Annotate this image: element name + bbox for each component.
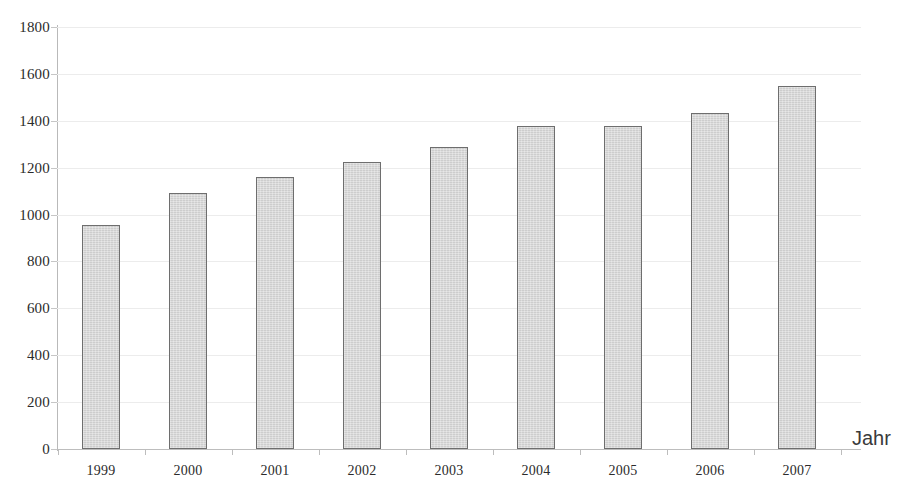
- x-axis-tick-label: 2007: [757, 464, 837, 478]
- y-axis-tick-mark: [51, 74, 57, 75]
- x-axis-title: Jahr: [852, 428, 891, 448]
- y-axis-tick-mark: [51, 215, 57, 216]
- y-axis-tick-label: 1400: [0, 113, 50, 128]
- x-axis-tick-label: 1999: [61, 464, 141, 478]
- x-axis-tick-mark: [58, 450, 59, 455]
- bar: [343, 162, 381, 449]
- y-axis-tick-mark: [51, 355, 57, 356]
- y-axis-tick-label: 1200: [0, 160, 50, 175]
- bar: [430, 147, 468, 449]
- x-axis-tick-mark: [406, 450, 407, 455]
- x-axis-tick-mark: [667, 450, 668, 455]
- y-axis-tick-label: 600: [0, 301, 50, 316]
- y-axis-tick-label: 800: [0, 254, 50, 269]
- y-axis-tick-mark: [51, 308, 57, 309]
- x-axis-tick-label: 2001: [235, 464, 315, 478]
- y-axis-tick-mark: [51, 168, 57, 169]
- bar: [778, 86, 816, 449]
- bar: [691, 113, 729, 449]
- x-axis-tick-mark: [319, 450, 320, 455]
- x-axis-tick-mark: [841, 450, 842, 455]
- x-axis-tick-mark: [145, 450, 146, 455]
- bar: [169, 193, 207, 449]
- bar: [604, 126, 642, 449]
- gridline: [57, 121, 861, 122]
- x-axis-tick-label: 2004: [496, 464, 576, 478]
- bar: [256, 177, 294, 449]
- x-axis-tick-mark: [493, 450, 494, 455]
- y-axis-tick-mark: [51, 261, 57, 262]
- x-axis-tick-label: 2005: [583, 464, 663, 478]
- x-axis-tick-mark: [754, 450, 755, 455]
- y-axis-tick-label: 1000: [0, 207, 50, 222]
- x-axis-line: [57, 449, 847, 450]
- plot-area: [57, 27, 861, 449]
- y-axis-tick-label: 200: [0, 395, 50, 410]
- x-axis-tick-label: 2002: [322, 464, 402, 478]
- y-axis-tick-labels: 020040060080010001200140016001800: [0, 0, 50, 497]
- gridline: [57, 27, 861, 28]
- y-axis-tick-label: 1600: [0, 66, 50, 81]
- x-axis-tick-label: 2000: [148, 464, 228, 478]
- y-axis-tick-mark: [51, 449, 57, 450]
- x-axis-tick-label: 2006: [670, 464, 750, 478]
- x-axis-tick-label: 2003: [409, 464, 489, 478]
- bar-chart: 020040060080010001200140016001800 Jahr 1…: [0, 0, 911, 497]
- gridline: [57, 74, 861, 75]
- bar: [82, 225, 120, 449]
- y-axis-tick-label: 400: [0, 348, 50, 363]
- y-axis-tick-mark: [51, 402, 57, 403]
- y-axis-tick-mark: [51, 121, 57, 122]
- x-axis-tick-mark: [232, 450, 233, 455]
- y-axis-tick-label: 1800: [0, 20, 50, 35]
- y-axis-tick-label: 0: [0, 442, 50, 457]
- y-axis-tick-mark: [51, 27, 57, 28]
- bar: [517, 126, 555, 449]
- x-axis-tick-mark: [580, 450, 581, 455]
